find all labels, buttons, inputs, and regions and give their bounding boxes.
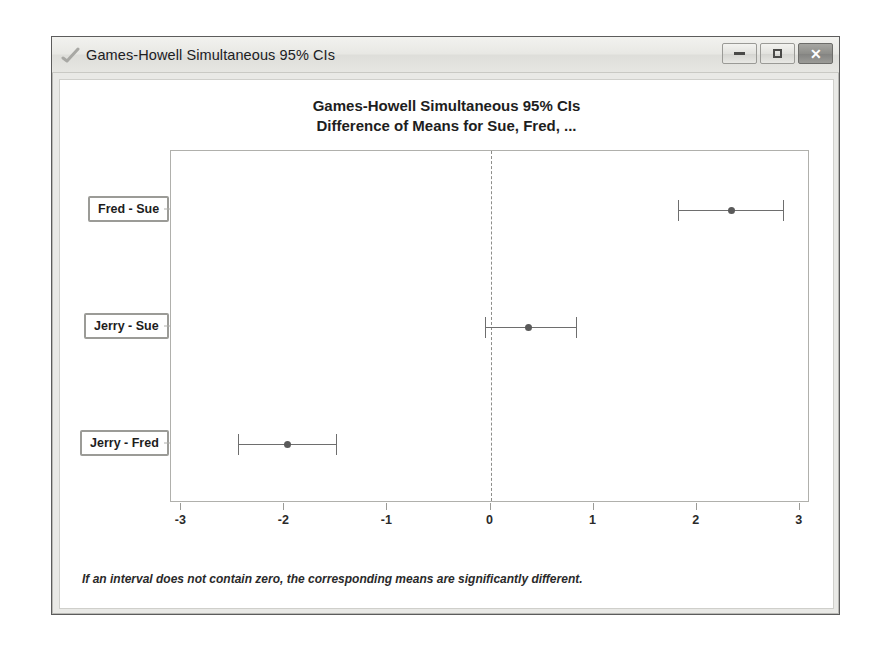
x-axis-tick [490,503,491,510]
x-axis-label: -1 [381,513,392,527]
confidence-interval [678,210,784,212]
chart-window: Games-Howell Simultaneous 95% CIs ✕ Game… [51,36,840,615]
interval-center-marker [525,324,532,331]
y-axis-tick [164,326,170,327]
close-icon: ✕ [810,47,822,61]
close-button[interactable]: ✕ [798,43,833,64]
x-axis-label: -2 [278,513,289,527]
interval-center-marker [728,207,735,214]
category-label-jerry-fred[interactable]: Jerry - Fred [80,430,169,456]
graph-client-area: Games-Howell Simultaneous 95% CIs Differ… [59,79,834,609]
confidence-interval [485,327,577,329]
y-axis-tick [164,443,170,444]
screenshot-root: Games-Howell Simultaneous 95% CIs ✕ Game… [0,0,888,658]
window-titlebar[interactable]: Games-Howell Simultaneous 95% CIs ✕ [52,37,839,73]
x-axis-label: -3 [175,513,186,527]
minimize-icon [734,52,745,55]
x-axis-label: 0 [486,513,493,527]
x-axis-tick [386,503,387,510]
maximize-button[interactable] [760,43,795,64]
footnote-divider [70,558,823,559]
x-axis-tick [799,503,800,510]
interval-lower-cap [485,317,486,338]
window-controls: ✕ [722,43,833,64]
x-axis-tick [283,503,284,510]
interval-center-marker [284,441,291,448]
category-label-jerry-sue[interactable]: Jerry - Sue [84,313,169,339]
x-axis-tick [696,503,697,510]
plot-area [170,150,809,502]
interval-upper-cap [336,434,337,455]
interval-lower-cap [678,200,679,221]
x-axis-label: 1 [589,513,596,527]
interval-lower-cap [238,434,239,455]
x-axis-label: 2 [692,513,699,527]
x-axis-label: 3 [795,513,802,527]
interval-upper-cap [576,317,577,338]
interval-upper-cap [783,200,784,221]
chart-subtitle: Difference of Means for Sue, Fred, ... [60,116,833,136]
confidence-interval [238,444,337,446]
x-axis-tick [593,503,594,510]
y-axis-tick [164,208,170,209]
minimize-button[interactable] [722,43,757,64]
x-axis-tick [180,503,181,510]
zero-reference-line [491,151,492,501]
footnote-text: If an interval does not contain zero, th… [82,572,583,586]
graph-checkmark-icon [61,45,81,65]
chart-title-block: Games-Howell Simultaneous 95% CIs Differ… [60,96,833,137]
chart-title-line1: Games-Howell Simultaneous 95% CIs [60,96,833,116]
maximize-icon [773,49,782,58]
category-label-fred-sue[interactable]: Fred - Sue [88,196,169,222]
window-title: Games-Howell Simultaneous 95% CIs [86,47,335,63]
